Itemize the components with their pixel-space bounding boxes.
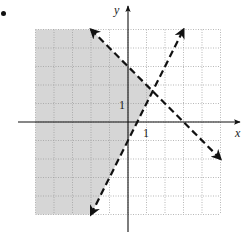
x-axis-label: x [234, 126, 241, 140]
y-tick-label: 1 [119, 98, 125, 112]
x-tick-label: 1 [143, 126, 149, 140]
y-axis-label: y [113, 3, 120, 17]
inequality-graph: y x 1 1 [0, 0, 243, 236]
